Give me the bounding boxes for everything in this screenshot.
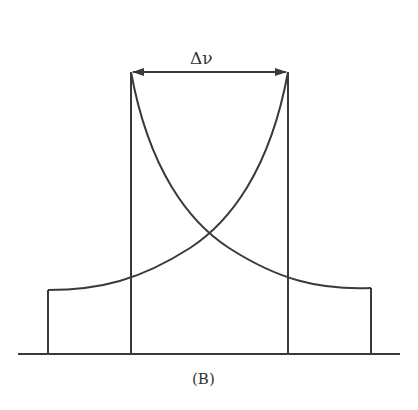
figure-caption: (B) [192, 370, 215, 388]
linewidth-label: Δν [190, 48, 213, 68]
diagram-canvas: Δν (B) [0, 0, 418, 410]
